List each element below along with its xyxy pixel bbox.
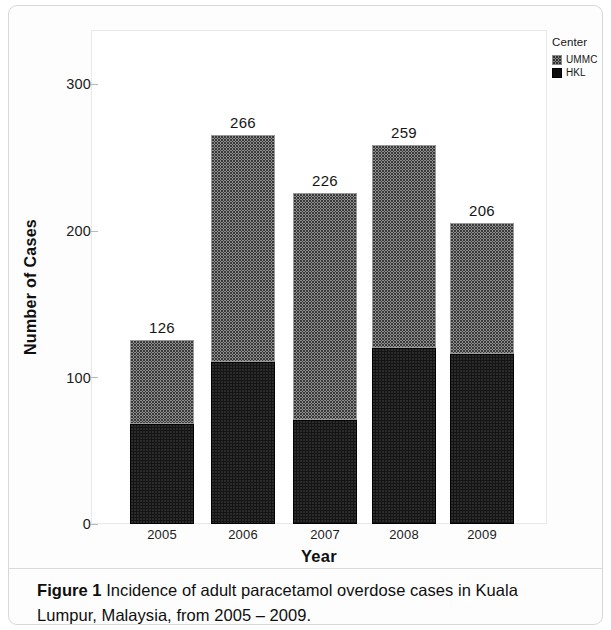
bar-group-2005[interactable]: 126 [130,340,194,524]
legend-item-hkl[interactable]: HKL [552,67,603,78]
bar-total-label-2007: 226 [279,172,371,189]
figure-caption-text: Incidence of adult paracetamol overdose … [37,581,518,624]
caption-divider [9,568,602,569]
x-tick-label-2009: 2009 [437,527,527,542]
legend-label-ummc: UMMC [566,54,598,65]
bar-total-label-2005: 126 [116,319,208,336]
y-tick-label-0: 0 [49,516,91,532]
bar-segment-hkl-2006 [211,362,275,524]
bar-group-2007[interactable]: 226 [293,193,357,524]
x-tick-label-2008: 2008 [359,527,449,542]
legend-swatch-ummc-icon [552,55,562,65]
bar-segment-hkl-2009 [450,354,514,524]
x-tick-label-2005: 2005 [117,527,207,542]
x-axis-title: Year [91,547,547,566]
legend-item-ummc[interactable]: UMMC [552,54,603,65]
bar-segment-ummc-2009 [450,223,514,354]
bar-group-2009[interactable]: 206 [450,223,514,524]
figure-card: Number of Cases 0 100 200 300 126 266 22… [8,5,603,625]
bar-total-label-2008: 259 [358,124,450,141]
y-tick-label-200: 200 [49,223,91,239]
x-tick-label-2006: 2006 [198,527,288,542]
y-tick-mark-0 [91,524,98,525]
y-tick-mark-100 [91,377,98,378]
y-axis-ticks: 0 100 200 300 [29,6,91,568]
figure-caption-label: Figure 1 [37,581,106,599]
bar-segment-ummc-2005 [130,340,194,424]
y-tick-label-300: 300 [49,76,91,92]
bar-segment-ummc-2007 [293,193,357,420]
bar-group-2008[interactable]: 259 [372,145,436,524]
y-tick-mark-200 [91,231,98,232]
bar-total-label-2006: 266 [197,114,289,131]
bar-segment-hkl-2008 [372,348,436,524]
x-tick-label-2007: 2007 [280,527,370,542]
y-tick-mark-300 [91,84,98,85]
figure-caption: Figure 1 Incidence of adult paracetamol … [37,578,577,625]
bar-segment-hkl-2005 [130,424,194,524]
legend-swatch-hkl-icon [552,68,562,78]
bar-segment-hkl-2007 [293,420,357,524]
bar-segment-ummc-2008 [372,145,436,348]
chart-region: Number of Cases 0 100 200 300 126 266 22… [9,6,602,568]
legend-title: Center [552,36,603,48]
bar-segment-ummc-2006 [211,135,275,362]
bar-group-2006[interactable]: 266 [211,135,275,524]
legend-label-hkl: HKL [566,67,586,78]
legend: Center UMMC HKL [552,36,603,80]
bar-total-label-2009: 206 [436,202,528,219]
y-tick-label-100: 100 [49,370,91,386]
